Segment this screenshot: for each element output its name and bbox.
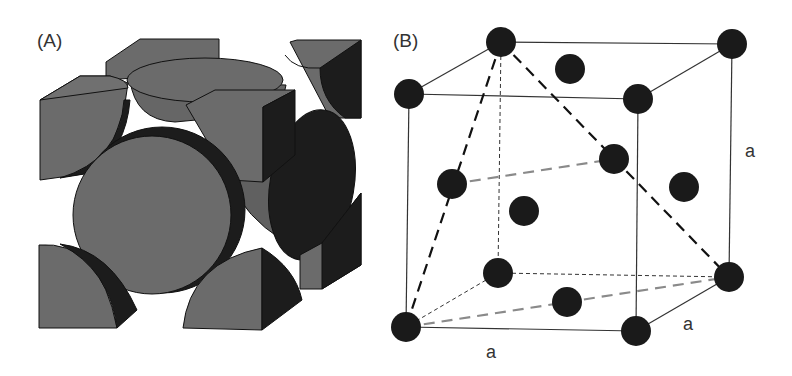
edge-length-label-horizontal: a (486, 342, 496, 363)
atom-corner (486, 27, 516, 57)
panel-b-lattice-model (0, 0, 792, 376)
atom-corner (621, 316, 651, 346)
edge-length-label-depth: a (683, 314, 693, 335)
atom-corner (717, 29, 747, 59)
atom-corner (714, 262, 744, 292)
atom-face-center (555, 54, 585, 84)
atom-face-center (437, 169, 467, 199)
edge-length-label-vertical: a (745, 141, 755, 162)
atom-corner (623, 84, 653, 114)
atom-corner (391, 312, 421, 342)
atom-face-center (599, 144, 629, 174)
atom-face-center (509, 196, 539, 226)
atom-face-center (669, 172, 699, 202)
atom-face-center (552, 287, 582, 317)
atom-corner (394, 79, 424, 109)
atom-corner (483, 258, 513, 288)
